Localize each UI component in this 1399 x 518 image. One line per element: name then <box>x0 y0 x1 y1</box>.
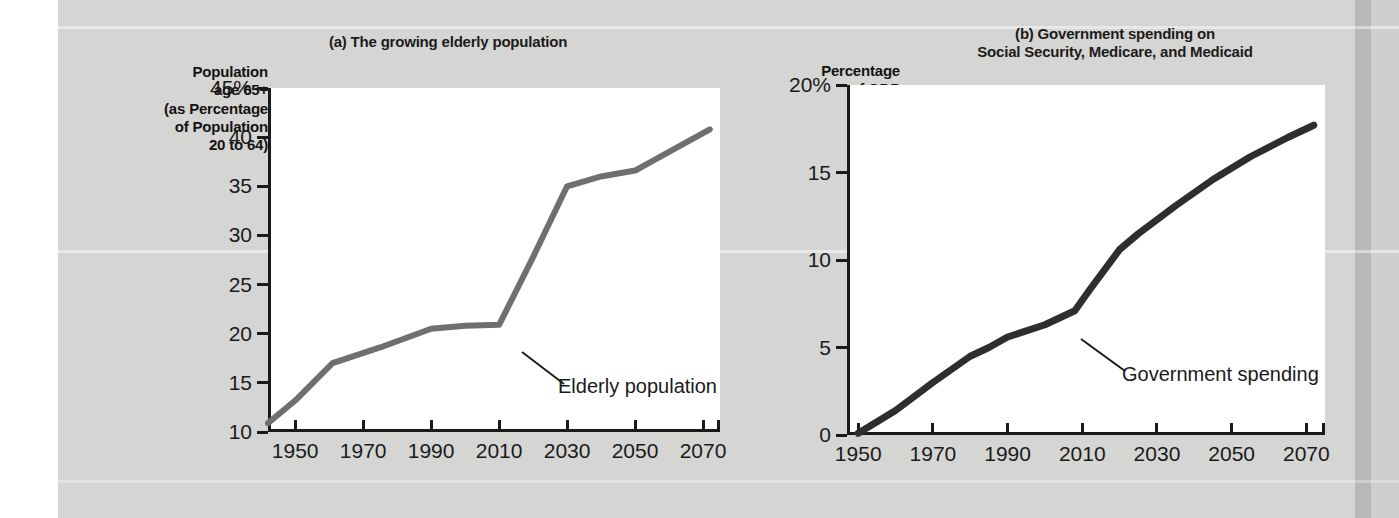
x-tick-label: 1990 <box>984 442 1031 466</box>
y-tick-label: 20 <box>229 321 252 345</box>
chart-b-title-line: Social Security, Medicare, and Medicaid <box>880 43 1350 61</box>
y-tick-label: 10 <box>229 420 252 444</box>
x-tick-label: 2070 <box>1283 442 1330 466</box>
x-tick-label: 2050 <box>1208 442 1255 466</box>
y-tick-mark <box>257 332 268 335</box>
chart-a-plot-area: 1015202530354045%19501970199020102030205… <box>268 88 720 432</box>
y-tick-mark <box>836 171 847 174</box>
x-tick-label: 1970 <box>340 439 387 463</box>
y-tick-mark <box>836 346 847 349</box>
y-tick-mark <box>257 234 268 237</box>
y-tick-label: 20% <box>789 73 831 97</box>
scan-gutter-band <box>1355 0 1371 518</box>
y-tick-mark <box>836 434 847 437</box>
chart-b-annotation-leader-line <box>1079 337 1127 373</box>
x-tick-label: 2010 <box>476 439 523 463</box>
y-tick-label: 30 <box>229 223 252 247</box>
x-tick-label: 1990 <box>408 439 455 463</box>
y-tick-label: 40 <box>229 125 252 149</box>
chart-panel-b: (b) Government spending on Social Securi… <box>700 0 1355 518</box>
y-tick-label: 45% <box>210 76 252 100</box>
y-tick-mark <box>257 87 268 90</box>
chart-a-title: (a) The growing elderly population <box>238 33 658 51</box>
scan-right-margin <box>1371 0 1399 518</box>
y-axis-label-line: (as Percentage <box>93 100 268 118</box>
x-tick-label: 2050 <box>612 439 659 463</box>
y-tick-label: 5 <box>819 335 831 359</box>
y-tick-mark <box>836 84 847 87</box>
x-tick-label: 1950 <box>835 442 882 466</box>
y-tick-mark <box>257 431 268 434</box>
figure-page: (a) The growing elderly population Popul… <box>0 0 1399 518</box>
x-tick-label: 1950 <box>272 439 319 463</box>
x-tick-label: 1970 <box>910 442 957 466</box>
chart-b-title: (b) Government spending on Social Securi… <box>880 25 1350 61</box>
chart-b-series-annotation: Government spending <box>1122 363 1319 386</box>
y-tick-label: 35 <box>229 174 252 198</box>
y-tick-mark <box>836 259 847 262</box>
chart-panel-a: (a) The growing elderly population Popul… <box>58 0 758 518</box>
chart-b-title-line: (b) Government spending on <box>880 25 1350 43</box>
chart-b-plot-area: 05101520%1950197019902010203020502070 Go… <box>847 85 1325 435</box>
y-tick-label: 15 <box>808 160 831 184</box>
y-tick-mark <box>257 283 268 286</box>
x-tick-label: 2030 <box>544 439 591 463</box>
x-tick-label: 2030 <box>1134 442 1181 466</box>
y-tick-label: 10 <box>808 248 831 272</box>
chart-a-series-annotation: Elderly population <box>558 375 717 398</box>
y-tick-mark <box>257 381 268 384</box>
x-tick-label: 2010 <box>1059 442 1106 466</box>
y-tick-label: 15 <box>229 370 252 394</box>
y-tick-label: 25 <box>229 272 252 296</box>
y-tick-label: 0 <box>819 423 831 447</box>
y-tick-mark <box>257 136 268 139</box>
y-tick-mark <box>257 185 268 188</box>
